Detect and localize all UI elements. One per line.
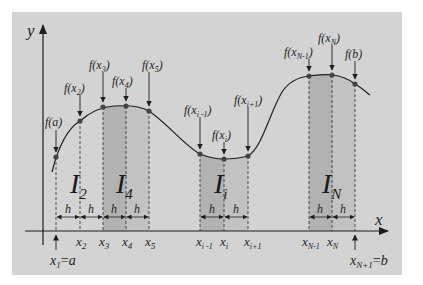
label-f-x2: f(x2) [64,81,85,97]
tick-x1-equals-a: x1=a [49,253,76,270]
tick-x5: x5 [144,234,156,251]
label-f-xi: f(xi) [212,128,231,144]
svg-text:h: h [233,202,239,216]
label-f-b: f(b) [345,47,362,61]
y-axis-label: y [25,21,35,40]
svg-text:h: h [65,202,71,216]
svg-text:h: h [209,202,215,216]
tick-xim1: xi -1 [195,234,213,251]
label-f-xNm1: f(xN-1) [284,45,313,61]
x-tick-labels: x2 x3 x4 x5 xi -1 xi xi+1 xN-1 xN [75,234,339,251]
tick-xN: xN [326,234,339,251]
label-f-x4: f(x4) [112,74,133,90]
svg-text:h: h [88,202,94,216]
label-f-x5: f(x5) [142,58,163,74]
svg-text:h: h [134,202,140,216]
label-f-a: f(a) [45,115,62,129]
tick-x3: x3 [98,234,110,251]
tick-xi: xi [219,234,229,251]
tick-xNm1: xN-1 [301,234,320,251]
label-f-xip1: f(xi+1) [234,93,262,109]
svg-text:h: h [111,202,117,216]
label-f-xim1: f(xi -1) [184,103,212,119]
tick-x4: x4 [121,234,133,251]
label-f-x3: f(x3) [89,58,110,74]
tick-xip1: xi+1 [243,234,261,251]
tick-x2: x2 [75,234,87,251]
composite-integration-diagram: y x f(a) f(x2) f(x3) f(x4) f(x5) f( [0,0,423,285]
x-axis-label: x [374,210,383,229]
region-Ii-right [224,156,248,231]
svg-text:h: h [340,202,346,216]
svg-text:h: h [317,202,323,216]
label-I2: I2 [69,168,87,202]
label-f-xN: f(xN) [318,31,340,47]
tick-xNp1-equals-b: xN+1=b [349,253,388,270]
